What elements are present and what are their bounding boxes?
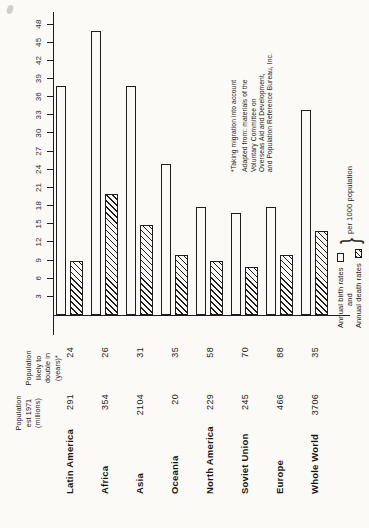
axis-tick — [47, 223, 53, 224]
population-1971-value-whole-world: 3706 — [307, 394, 323, 436]
annotation-line: Overseas Aid and Development, — [258, 22, 266, 172]
axis-tick — [47, 187, 53, 188]
axis-tick — [47, 241, 53, 242]
bar-death-rate-latin-america — [70, 261, 83, 315]
legend-and-label: and — [345, 293, 354, 306]
population-1971-value-latin-america: 291 — [62, 394, 78, 436]
scanned-chart-page: 36912151821242730333639424548Latin Ameri… — [0, 0, 369, 528]
population-1971-value-asia: 2104 — [132, 394, 148, 436]
bar-birth-rate-whole-world — [301, 110, 311, 316]
bar-birth-rate-europe — [266, 207, 276, 316]
legend-birth-row: Annual birth rates — [336, 249, 345, 328]
axis-tick — [47, 151, 53, 152]
legend-unit-label: per 1000 population — [345, 166, 354, 234]
bar-birth-rate-latin-america — [56, 86, 66, 316]
bar-death-rate-north-america — [210, 261, 223, 315]
axis-tick — [47, 260, 53, 261]
legend-birth-label: Annual birth rates — [336, 267, 345, 328]
annotation-line: and Population Reference Bureau, Inc. — [266, 22, 274, 172]
population-1971-value-europe: 466 — [272, 394, 288, 436]
birth-rate-swatch-icon — [337, 253, 344, 262]
years-to-double-value-whole-world: 35 — [307, 347, 323, 389]
annotation-line: *Taking migration into account — [230, 22, 238, 172]
bar-death-rate-asia — [140, 225, 153, 316]
bar-death-rate-oceania — [175, 255, 188, 316]
axis-tick — [47, 114, 53, 115]
value-axis-line — [53, 12, 54, 335]
bar-death-rate-soviet-union — [245, 267, 258, 315]
bar-birth-rate-asia — [126, 86, 136, 316]
axis-tick — [47, 42, 53, 43]
years-to-double-value-north-america: 58 — [202, 347, 218, 389]
bar-birth-rate-africa — [91, 31, 101, 315]
bar-birth-rate-oceania — [161, 164, 171, 315]
years-to-double-value-africa: 26 — [97, 347, 113, 389]
years-to-double-value-oceania: 35 — [167, 347, 183, 389]
legend-death-row: Annual death rates — [354, 249, 363, 328]
population-1971-header: Populationest 1971(millions) — [14, 390, 43, 436]
annotation-line: Adapted from: materials of the — [241, 22, 249, 172]
bar-death-rate-africa — [105, 195, 118, 316]
legend-series-lines: Annual birth rates and Annual death rate… — [336, 249, 363, 328]
death-rate-swatch-icon — [355, 249, 362, 258]
population-1971-value-africa: 354 — [97, 394, 113, 436]
rotated-chart-canvas: 36912151821242730333639424548Latin Ameri… — [0, 0, 369, 528]
years-to-double-value-latin-america: 24 — [62, 347, 78, 389]
population-1971-value-oceania: 20 — [167, 394, 183, 436]
annotation-line: Voluntary Committee on — [250, 22, 258, 172]
years-to-double-value-soviet-union: 70 — [237, 347, 253, 389]
axis-tick — [47, 205, 53, 206]
population-1971-value-north-america: 229 — [202, 394, 218, 436]
years-to-double-value-europe: 88 — [272, 347, 288, 389]
axis-tick — [47, 24, 53, 25]
bar-birth-rate-north-america — [196, 207, 206, 316]
source-annotation: *Taking migration into accountAdapted fr… — [230, 22, 274, 172]
axis-tick-label: 48 — [34, 13, 43, 35]
axis-tick — [47, 133, 53, 134]
bar-death-rate-whole-world — [315, 231, 328, 316]
axis-tick — [47, 96, 53, 97]
axis-tick — [47, 169, 53, 170]
axis-tick — [47, 296, 53, 297]
legend: Annual birth rates and Annual death rate… — [336, 166, 363, 328]
legend-brace: } — [345, 238, 355, 244]
years-to-double-header: Populationlikely todouble in(years)* — [24, 344, 62, 392]
axis-tick — [47, 60, 53, 61]
axis-tick — [47, 78, 53, 79]
bar-birth-rate-soviet-union — [231, 213, 241, 316]
years-to-double-value-asia: 31 — [132, 347, 148, 389]
population-1971-value-soviet-union: 245 — [237, 394, 253, 436]
bar-death-rate-europe — [280, 255, 293, 316]
legend-death-label: Annual death rates — [354, 263, 363, 328]
axis-tick — [47, 278, 53, 279]
legend-and-row: and — [345, 249, 354, 306]
